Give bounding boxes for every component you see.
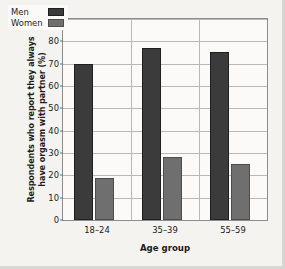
bar-women-35-39 [163,157,182,220]
bar-women-55-59 [231,164,250,220]
y-tick-mark [60,220,63,221]
y-tick-label: 80 [48,36,59,46]
y-gridline [63,86,267,87]
plot-inner: 908070605040302010018–2435–3955–59 [63,19,267,220]
y-gridline [63,41,267,42]
x-tick-label: 18–24 [84,225,110,235]
y-tick-mark [60,153,63,154]
group-separator-line [199,19,200,220]
y-tick-mark [60,175,63,176]
legend-swatch-men [48,8,64,16]
y-axis-title: Respondents who report they always have … [26,20,47,220]
legend-item-men: Men [11,7,64,17]
y-gridline [63,19,267,20]
y-tick-label: 70 [48,59,59,69]
y-gridline [63,153,267,154]
legend-item-women: Women [11,18,64,28]
y-gridline [63,220,267,221]
group-separator-line [131,19,132,220]
y-tick-mark [60,198,63,199]
y-tick-mark [60,86,63,87]
y-tick-label: 0 [54,215,59,225]
bar-men-18-24 [74,64,93,220]
y-tick-label: 40 [48,126,59,136]
legend-label-men: Men [11,7,44,17]
y-tick-mark [60,108,63,109]
bar-men-55-59 [210,52,229,220]
y-gridline [63,108,267,109]
chart-figure: Respondents who report they always have … [0,0,285,269]
legend-label-women: Women [11,18,44,28]
chart-legend: Men Women [8,5,68,30]
legend-swatch-women [48,19,64,27]
plot-area: 908070605040302010018–2435–3955–59 [62,18,268,221]
y-tick-label: 50 [48,103,59,113]
bar-women-18-24 [95,178,114,220]
y-axis-title-line-2: have orgasm with partner (%) [36,20,47,220]
y-tick-label: 20 [48,170,59,180]
y-axis-title-line-1: Respondents who report they always [26,20,37,220]
y-tick-mark [60,41,63,42]
x-axis-title: Age group [62,243,268,253]
y-tick-label: 30 [48,148,59,158]
y-tick-mark [60,64,63,65]
y-gridline [63,64,267,65]
y-tick-mark [60,131,63,132]
y-gridline [63,131,267,132]
y-tick-label: 60 [48,81,59,91]
bar-men-35-39 [142,48,161,220]
y-tick-label: 10 [48,193,59,203]
x-tick-label: 35–39 [152,225,178,235]
x-tick-label: 55–59 [220,225,246,235]
